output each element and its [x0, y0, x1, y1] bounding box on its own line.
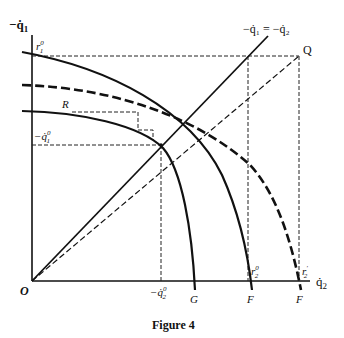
- curve-f-outer-label: F: [295, 293, 303, 305]
- curve-g-label: G: [190, 293, 198, 305]
- point-r-label: R: [61, 98, 69, 110]
- tick-minus-q1-0: −q̇01: [34, 129, 51, 145]
- tick-r2-0: r02: [251, 264, 259, 280]
- point-q-label: Q: [303, 43, 312, 57]
- figure-diagram: −q̇1 q̇2 O −q̇₁ = −q̇₂ Q R r01 −q̇01 −q̇…: [0, 0, 344, 338]
- origin-label: O: [20, 284, 29, 298]
- tick-minus-q2-0: −q̇02: [150, 285, 167, 301]
- tick-r1-0: r01: [36, 39, 44, 55]
- x-axis-label: q̇2: [316, 274, 327, 291]
- figure-caption: Figure 4: [152, 318, 195, 332]
- y-axis-label: −q̇1: [9, 17, 29, 34]
- tick-r2-prime: r′2: [302, 264, 308, 280]
- oq-dashed-diagonal: [32, 56, 299, 281]
- diagonal-label: −q̇₁ = −q̇₂: [243, 22, 290, 36]
- curve-f-inner-label: F: [246, 293, 254, 305]
- intersection-point: [159, 143, 163, 147]
- equal-q-diagonal: [32, 36, 268, 281]
